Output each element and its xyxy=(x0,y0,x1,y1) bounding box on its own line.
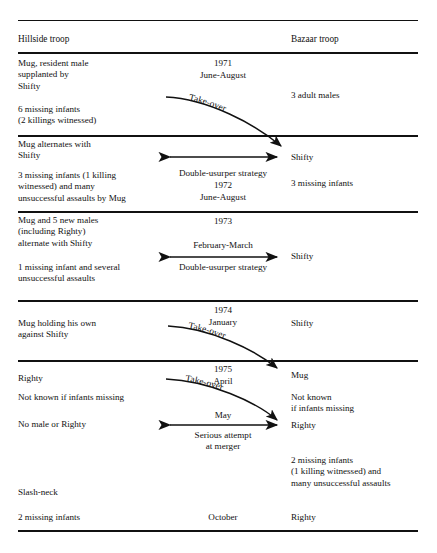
row-1972-right-text-2: 3 missing infants xyxy=(291,178,436,189)
rule-under-headers xyxy=(18,52,418,54)
row-1975-month-april: April xyxy=(150,376,296,387)
row-1975-right-text-2: Not known if infants missing xyxy=(291,392,436,415)
row-1975-right-text-3: Righty xyxy=(291,420,436,431)
row-1971-month: June-August xyxy=(150,70,296,81)
row-1971-right-text: 3 adult males xyxy=(291,90,436,101)
row-1973-month: February-March xyxy=(150,240,296,251)
row-1975-merger-label: Serious attempt at merger xyxy=(150,430,296,453)
row-1973-year: 1973 xyxy=(150,216,296,227)
row-1975-left-text-2: Not known if infants missing xyxy=(18,392,188,403)
row-1971-left-text-2: 6 missing infants (2 killings witnessed) xyxy=(18,104,188,127)
rule-after-1973 xyxy=(18,300,418,302)
rule-after-1971 xyxy=(18,135,418,137)
takeover-arrow-1971-label: Take-over xyxy=(188,92,228,114)
troop-history-figure: Hillside troop Bazaar troop Mug, residen… xyxy=(0,0,437,553)
row-1975-right-text-5: Righty xyxy=(291,512,436,523)
row-1974-month: January xyxy=(150,317,296,328)
row-1972-year: 1972 xyxy=(150,180,296,191)
row-1975-year: 1975 xyxy=(150,364,296,375)
row-1975-right-text-4: 2 missing infants (1 killing witnessed) … xyxy=(291,455,436,489)
row-1974-right-text: Shifty xyxy=(291,318,436,329)
row-1974-year: 1974 xyxy=(150,305,296,316)
row-1971-year: 1971 xyxy=(150,58,296,69)
row-1972-right-text: Shifty xyxy=(291,152,436,163)
header-bazaar-troop: Bazaar troop xyxy=(291,34,436,45)
row-1972-month: June-August xyxy=(150,192,296,203)
row-1975-right-text: Mug xyxy=(291,370,436,381)
rule-bottom xyxy=(18,530,418,532)
rule-after-1974 xyxy=(18,360,418,362)
row-1973-arrow-label: Double-usurper strategy xyxy=(150,262,296,273)
row-1973-right-text: Shifty xyxy=(291,251,436,262)
row-1975-month-may: May xyxy=(150,410,296,421)
row-1972-left-text: Mug alternates with Shifty xyxy=(18,139,188,162)
row-1975-left-text-4: Slash-neck xyxy=(18,487,188,498)
row-1975-month-october: October xyxy=(150,512,296,523)
row-1972-arrow-label: Double-usurper strategy xyxy=(150,168,296,179)
rule-after-1972 xyxy=(18,211,418,213)
rule-top xyxy=(18,20,418,21)
header-hillside-troop: Hillside troop xyxy=(18,34,188,45)
